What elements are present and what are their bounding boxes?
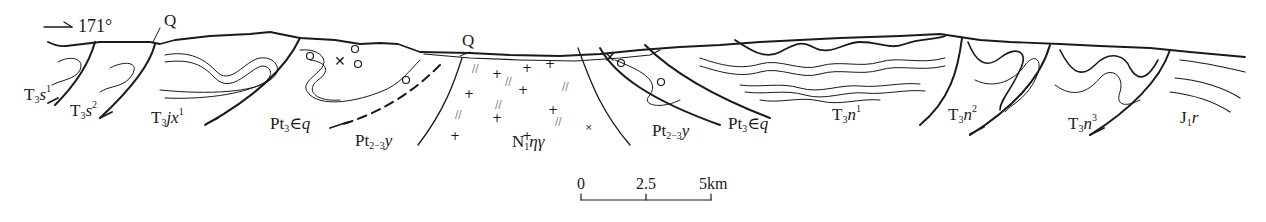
svg-text:✕: ✕ xyxy=(604,49,616,65)
formation-label-J1r: J1r xyxy=(1180,109,1198,128)
formation-label-Pt2-3y-right: Pt2−3y xyxy=(652,122,689,141)
svg-text:+: + xyxy=(545,57,555,71)
svg-text:+: + xyxy=(522,61,532,75)
scale-tick-0: 0 xyxy=(577,176,585,192)
svg-text:+: + xyxy=(464,87,474,101)
svg-text:+: + xyxy=(492,111,502,125)
cross-section-drawing: +++ +++ +++ × ////// ////// ✕ ✕ xyxy=(0,0,1266,222)
formation-label-T3n3: T3n3 xyxy=(1068,113,1097,134)
scale-tick-2-5: 2.5 xyxy=(636,176,656,192)
formation-label-N1ηγ: N1ηγ xyxy=(512,133,544,152)
svg-text://: // xyxy=(472,63,479,74)
formation-label-Pt2-3y-left: Pt2−3y xyxy=(355,132,392,151)
svg-text:+: + xyxy=(548,103,558,117)
formation-label-T3s2: T3s2 xyxy=(70,100,97,121)
svg-text:+: + xyxy=(492,67,502,81)
formation-label-T3n1: T3n1 xyxy=(832,104,861,125)
svg-text://: // xyxy=(495,99,502,110)
quaternary-label: Q xyxy=(462,32,474,49)
topographic-surface xyxy=(48,32,1245,57)
svg-text:+: + xyxy=(518,83,528,97)
formation-label-Pt3Eq-right: Pt3∈q xyxy=(728,115,768,134)
azimuth-label: —→171° xyxy=(42,17,112,35)
scale-bar xyxy=(581,194,711,200)
svg-text:✕: ✕ xyxy=(334,53,346,69)
formation-label-T3s1: T3s1 xyxy=(24,84,51,105)
svg-text:+: + xyxy=(450,129,460,143)
svg-text://: // xyxy=(562,81,569,92)
formation-label-T3n2: T3n2 xyxy=(948,104,977,125)
formation-label-Pt3Eq-left: Pt3∈q xyxy=(270,115,310,134)
quaternary-label: Q xyxy=(164,12,176,29)
svg-text://: // xyxy=(455,109,462,120)
scale-tick-5km: 5km xyxy=(699,176,727,192)
svg-text:×: × xyxy=(585,122,593,132)
formation-label-T3jx1: T3jx1 xyxy=(151,107,184,128)
svg-text://: // xyxy=(505,76,512,87)
svg-text://: // xyxy=(555,116,562,127)
